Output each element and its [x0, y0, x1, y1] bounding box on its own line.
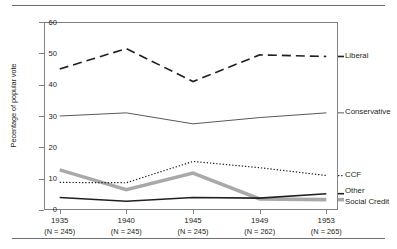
legend-label-social-credit: Social Credit	[345, 198, 389, 207]
series-line-liberal	[60, 49, 327, 82]
chart-figure: Pecentage of popular vote 60 50 40 30 20…	[0, 0, 397, 249]
legend-label-ccf: CCF	[345, 171, 361, 180]
legend-label-other: Other	[345, 187, 365, 196]
series-line-social-credit	[60, 170, 327, 200]
series-line-conservative	[60, 113, 327, 124]
legend-label-liberal: Liberal	[345, 52, 368, 61]
legend-label-conservative: Conservative	[345, 108, 391, 117]
chart-series-layer	[0, 0, 397, 249]
